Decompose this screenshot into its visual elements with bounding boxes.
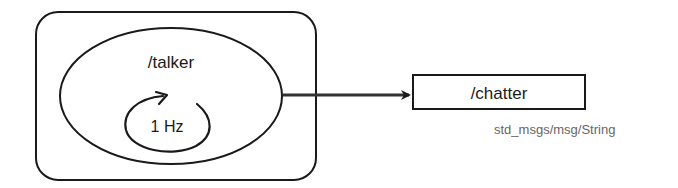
- topic-name-label: /chatter: [471, 84, 528, 103]
- node-container-box: [36, 12, 316, 180]
- timer-rate-label: 1 Hz: [151, 118, 184, 135]
- message-type-label: std_msgs/msg/String: [494, 122, 615, 137]
- talker-node-ellipse[interactable]: [60, 28, 282, 164]
- node-name-label: /talker: [148, 53, 195, 72]
- ros-graph-diagram: /talker 1 Hz /chatter std_msgs/msg/Strin…: [0, 0, 678, 188]
